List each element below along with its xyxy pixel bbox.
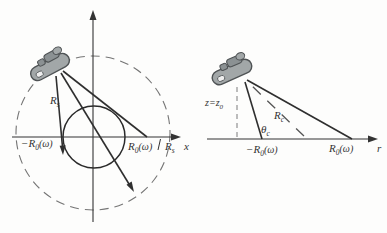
figure-canvas: Rs −R0(ω) R0(ω) Rs x z=z0 Rc θc −R0(ω) R… [0, 0, 387, 233]
x-axis-arrowhead [171, 134, 181, 141]
axis-tick [158, 139, 161, 150]
label-x-axis: x [183, 140, 189, 152]
label-pos-r0-left: R0(ω) [127, 140, 153, 155]
beam-edge-left [56, 76, 63, 147]
figure-page: Rs −R0(ω) R0(ω) Rs x z=z0 Rc θc −R0(ω) R… [0, 0, 387, 233]
label-neg-r0-left: −R0(ω) [21, 137, 53, 152]
beam-edge-right [63, 71, 147, 137]
label-circle-radius: Rs [164, 140, 175, 155]
label-center-range: Rc [273, 109, 285, 124]
right-diagram: z=z0 Rc θc −R0(ω) R0(ω) r [204, 50, 382, 157]
label-r-axis: r [377, 142, 382, 154]
vertical-axis-arrowhead [90, 10, 97, 20]
label-pos-r0-right: R0(ω) [328, 142, 354, 157]
label-neg-r0-right: −R0(ω) [246, 143, 278, 158]
aircraft-icon [25, 44, 72, 83]
left-diagram: Rs −R0(ω) R0(ω) Rs x [12, 10, 189, 222]
label-look-angle: θc [261, 123, 270, 138]
beam-edge-left-arrowhead [60, 145, 66, 155]
near-beam-line [245, 82, 262, 139]
aircraft-icon [207, 50, 254, 87]
label-altitude: z=z0 [204, 97, 224, 111]
